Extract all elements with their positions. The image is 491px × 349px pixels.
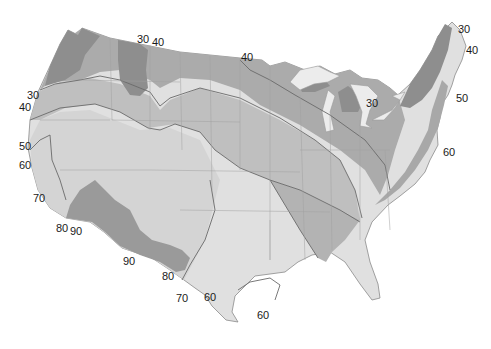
contour-label: 70 <box>33 193 45 204</box>
contour-label: 70 <box>176 293 188 304</box>
contour-label: 60 <box>204 292 216 303</box>
contour-label: 40 <box>152 37 164 48</box>
contour-label: 30 <box>137 34 149 45</box>
contour-label: 60 <box>443 147 455 158</box>
contour-label: 60 <box>257 310 269 321</box>
contour-label: 40 <box>241 52 253 63</box>
contour-label: 90 <box>70 226 82 237</box>
contour-label: 30 <box>366 98 378 109</box>
contour-label: 80 <box>56 223 68 234</box>
contour-label: 40 <box>19 102 31 113</box>
contour-label: 50 <box>19 141 31 152</box>
contour-label: 30 <box>27 90 39 101</box>
contour-label: 40 <box>466 45 478 56</box>
contour-label: 60 <box>19 160 31 171</box>
contour-label: 30 <box>458 24 470 35</box>
contour-label: 90 <box>123 256 135 267</box>
contour-label: 80 <box>162 271 174 282</box>
contour-label: 50 <box>456 93 468 104</box>
